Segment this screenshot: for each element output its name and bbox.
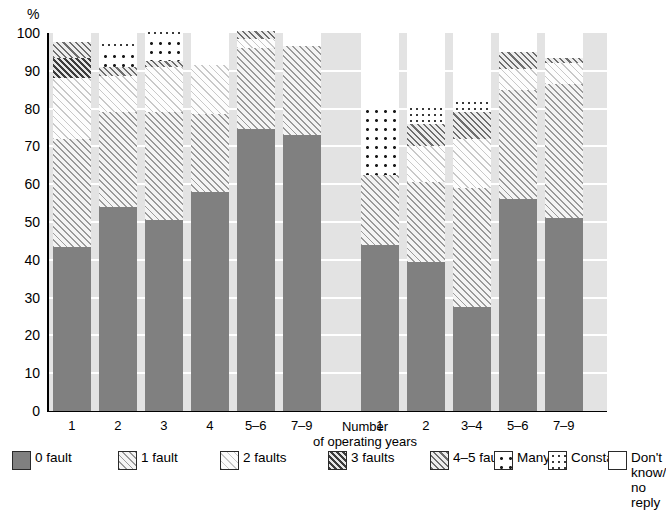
- bar-segment-f2: [145, 67, 183, 112]
- bar-segment-f1: [283, 46, 321, 135]
- legend-label-f2: 2 faults: [243, 450, 287, 465]
- bar-segment-f1: [53, 139, 91, 247]
- legend-item-many[interactable]: Many: [494, 450, 550, 482]
- bar-1[interactable]: [361, 33, 399, 411]
- bar-segment-f2: [453, 139, 491, 188]
- bar-5-6[interactable]: [237, 33, 275, 411]
- bar-segment-dk: [453, 33, 491, 99]
- legend-label-f1: 1 fault: [141, 450, 178, 465]
- legend-item-f1[interactable]: 1 fault: [118, 450, 178, 482]
- bar-segment-f45: [453, 112, 491, 138]
- bar-segment-f45: [499, 52, 537, 69]
- x-axis-tick-7-9-10: 7–9: [535, 419, 593, 433]
- bar-2[interactable]: [99, 33, 137, 411]
- bar-segment-f45: [407, 124, 445, 147]
- bar-segment-f2: [237, 39, 275, 48]
- legend-swatch-const: [548, 451, 567, 470]
- y-axis-tick-70: 70: [6, 139, 40, 153]
- bar-7-9[interactable]: [283, 33, 321, 411]
- y-axis-tick-20: 20: [6, 328, 40, 342]
- bar-segment-const: [99, 41, 137, 50]
- bar-7-9[interactable]: [545, 33, 583, 411]
- legend-label-f3: 3 faults: [351, 450, 395, 465]
- bar-segment-f1: [499, 90, 537, 200]
- bar-segment-dk: [283, 33, 321, 46]
- bar-segment-dk: [545, 33, 583, 58]
- bar-segment-f1: [407, 182, 445, 261]
- bar-segment-f0: [545, 218, 583, 411]
- bar-segment-f1: [145, 112, 183, 220]
- legend-item-f2[interactable]: 2 faults: [220, 450, 287, 482]
- legend-swatch-f2: [220, 451, 239, 470]
- bar-segment-f1: [191, 114, 229, 191]
- x-axis-title-line1: Number: [300, 419, 430, 434]
- legend-label-dk: Don't know/ no reply: [631, 450, 666, 510]
- bar-segment-dk: [499, 33, 537, 52]
- bar-segment-f0: [499, 199, 537, 411]
- bar-segment-f0: [407, 262, 445, 411]
- bar-segment-f2: [407, 146, 445, 182]
- y-axis-tick-0: 0: [6, 404, 40, 418]
- y-axis-tick-80: 80: [6, 102, 40, 116]
- legend-label-f0: 0 fault: [35, 450, 72, 465]
- bar-2[interactable]: [407, 33, 445, 411]
- bar-segment-f2: [545, 63, 583, 84]
- bar-segment-f0: [145, 220, 183, 411]
- y-axis-tick-60: 60: [6, 177, 40, 191]
- x-axis-title: Numberof operating years: [300, 419, 430, 449]
- bar-segment-f1: [545, 84, 583, 218]
- bar-segment-f1: [99, 112, 137, 207]
- legend-item-f0[interactable]: 0 fault: [12, 450, 72, 482]
- x-axis-title-line2: of operating years: [300, 434, 430, 449]
- bar-segment-dk: [99, 33, 137, 41]
- bar-5-6[interactable]: [499, 33, 537, 411]
- bar-segment-const: [145, 29, 183, 37]
- bar-segment-many: [99, 50, 137, 67]
- bar-segment-const: [407, 105, 445, 124]
- bar-segment-f0: [99, 207, 137, 411]
- plot-area: [49, 33, 607, 411]
- bar-segment-f45: [545, 58, 583, 64]
- legend-swatch-dk: [608, 451, 627, 470]
- y-axis-tick-30: 30: [6, 291, 40, 305]
- bar-segment-f0: [53, 247, 91, 411]
- bar-segment-dk: [361, 33, 399, 105]
- legend-swatch-f45: [430, 451, 449, 470]
- legend-label-many: Many: [517, 450, 550, 465]
- bar-segment-f2: [499, 69, 537, 90]
- legend-item-f3[interactable]: 3 faults: [328, 450, 395, 482]
- bar-segment-dk: [191, 33, 229, 65]
- bar-segment-dk: [407, 33, 445, 105]
- y-axis-tick-90: 90: [6, 64, 40, 78]
- bar-3-4[interactable]: [453, 33, 491, 411]
- y-axis-tick-10: 10: [6, 366, 40, 380]
- bar-segment-dk: [53, 33, 91, 42]
- bar-segment-f2: [99, 76, 137, 112]
- legend-swatch-f3: [328, 451, 347, 470]
- bar-4[interactable]: [191, 33, 229, 411]
- bar-segment-dk: [145, 25, 183, 29]
- bar-segment-many: [145, 37, 183, 62]
- bar-segment-f3: [53, 58, 91, 79]
- bar-segment-f0: [237, 129, 275, 411]
- legend-item-dk[interactable]: Don't know/ no reply: [608, 450, 666, 482]
- bar-segment-f45: [145, 61, 183, 67]
- bar-3[interactable]: [145, 33, 183, 411]
- bar-segment-many: [361, 105, 399, 175]
- y-axis-tick-40: 40: [6, 253, 40, 267]
- bar-segment-f0: [453, 307, 491, 411]
- bar-segment-f0: [361, 245, 399, 411]
- bar-segment-f1: [361, 175, 399, 245]
- bar-1[interactable]: [53, 33, 91, 411]
- legend-swatch-f1: [118, 451, 137, 470]
- bar-segment-f0: [191, 192, 229, 411]
- bar-segment-f45: [53, 42, 91, 57]
- bar-segment-f2: [53, 78, 91, 138]
- bar-segment-f1: [237, 48, 275, 129]
- y-axis-tick-50: 50: [6, 215, 40, 229]
- bar-segment-f45: [99, 67, 137, 76]
- bar-segment-const: [453, 99, 491, 112]
- bar-segment-f45: [237, 31, 275, 39]
- legend-swatch-many: [494, 451, 513, 470]
